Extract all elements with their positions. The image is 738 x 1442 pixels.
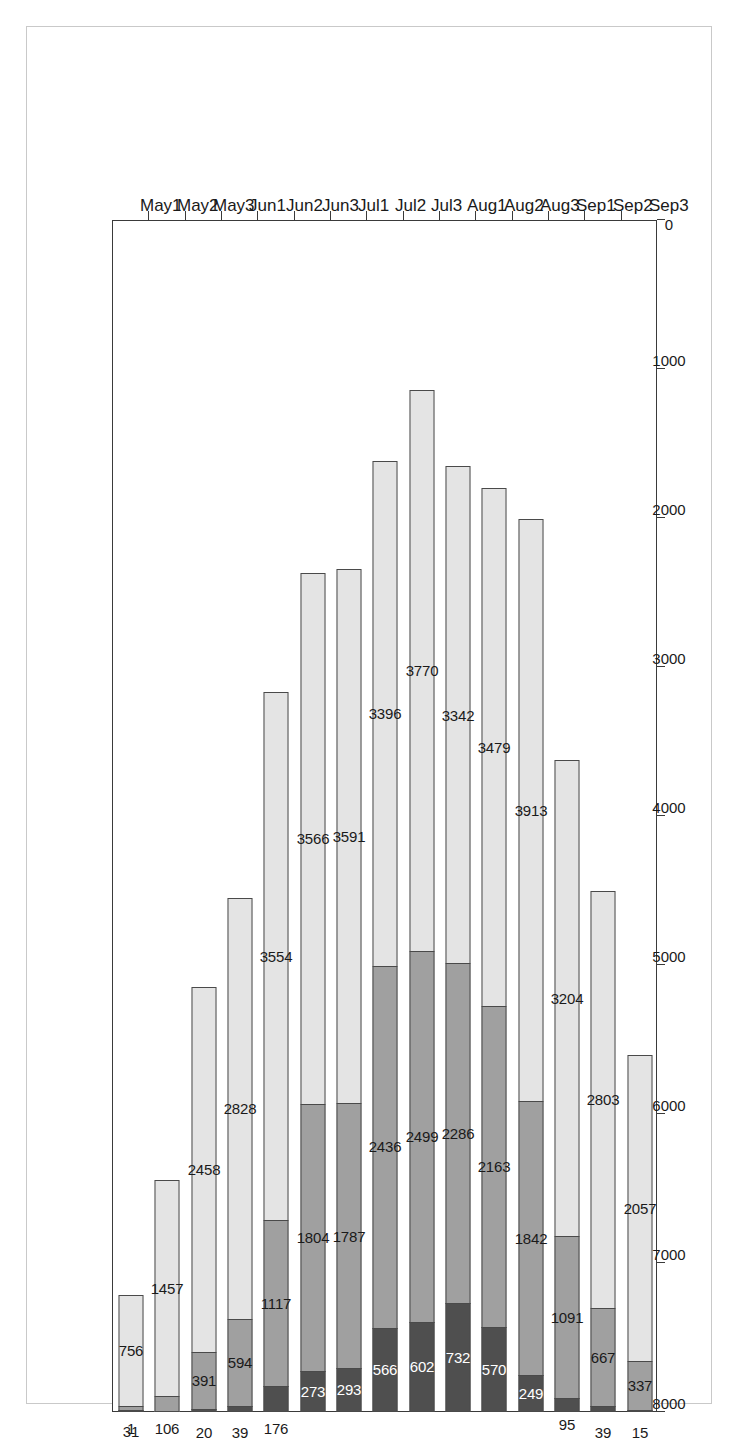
bar-value-label: 3342 [442,708,475,723]
value-axis-tick [657,219,665,220]
bar-group: 35661804273 [295,221,331,1411]
value-axis-tick-label: 0 [665,216,673,233]
bar-value-label: 1091 [551,1310,584,1325]
bar-segment[interactable]: 2458 [191,987,216,1353]
stacked-bar[interactable]: 34792163570 [482,488,507,1411]
bar-segment[interactable]: 2499 [409,951,434,1323]
category-axis-tick [439,211,440,220]
bar-segment[interactable]: 1117 [264,1220,289,1386]
category-axis-tick [512,211,513,220]
stacked-bar[interactable]: 33962436566 [373,461,398,1411]
bar-segment[interactable]: 39 [228,1406,253,1412]
category-axis-label: Sep2 [613,196,653,216]
bar-group: 35541117176 [258,221,294,1411]
stacked-bar[interactable]: 35541117176 [264,692,289,1411]
bar-segment[interactable]: 391 [191,1352,216,1410]
category-axis-tick [221,211,222,220]
bar-segment[interactable]: 1457 [155,1180,180,1397]
bar-segment[interactable]: 15 [627,1410,652,1412]
bar-segment[interactable]: 3770 [409,390,434,952]
bar-value-label: 3554 [260,949,293,964]
category-axis-tick [366,211,367,220]
bar-segment[interactable]: 249 [518,1375,543,1412]
bar-segment[interactable]: 293 [337,1368,362,1412]
category-axis-label: Jul1 [358,196,389,216]
bar-segment[interactable]: 106 [155,1396,180,1412]
category-axis-tick [475,211,476,220]
bar-segment[interactable]: 756 [119,1295,144,1408]
stacked-bar[interactable]: 282859439 [228,898,253,1411]
bar-value-label: 756 [119,1344,143,1359]
bar-segment[interactable]: 2057 [627,1055,652,1361]
bar-segment[interactable]: 566 [373,1328,398,1412]
bar-segment[interactable]: 2163 [482,1006,507,1328]
category-axis-label: Aug3 [540,196,580,216]
category-axis-label: Sep3 [649,196,689,216]
bar-segment[interactable]: 95 [555,1398,580,1412]
bar-segment[interactable]: 3342 [446,466,471,964]
stacked-bar[interactable]: 245839120 [191,987,216,1411]
stacked-bar[interactable]: 39131842249 [518,519,543,1411]
bar-segment[interactable]: 732 [446,1303,471,1412]
stacked-bar[interactable]: 1457106 [155,1180,180,1411]
bar-value-label: 176 [264,1422,288,1437]
bar-segment[interactable]: 2286 [446,963,471,1304]
bar-segment[interactable]: 602 [409,1322,434,1412]
bar-segment[interactable]: 667 [591,1308,616,1407]
stacked-bar[interactable]: 205733715 [627,1055,652,1411]
bar-segment[interactable]: 273 [300,1371,325,1412]
bar-value-label: 2828 [224,1102,257,1117]
bar-segment[interactable]: 3591 [337,569,362,1104]
bar-value-label: 594 [228,1355,252,1370]
bar-segment[interactable]: 20 [191,1409,216,1412]
category-axis-label: Sep1 [576,196,616,216]
stacked-bar[interactable]: 3204109195 [555,760,580,1411]
bar-segment[interactable]: 1787 [337,1103,362,1369]
category-axis-label: Jun2 [286,196,323,216]
stacked-bar[interactable]: 35661804273 [300,573,325,1411]
bar-segment[interactable]: 3913 [518,519,543,1102]
bar-group: 34792163570 [476,221,512,1411]
bar-group: 282859439 [222,221,258,1411]
bar-segment[interactable]: 3566 [300,573,325,1104]
bar-segment[interactable]: 570 [482,1327,507,1412]
bar-value-label: 1842 [515,1231,548,1246]
category-axis-tick [185,211,186,220]
bar-value-label: 3204 [551,991,584,1006]
bar-segment[interactable]: 3554 [264,692,289,1222]
category-axis-label: May2 [177,196,219,216]
bar-group: 1457106 [149,221,185,1411]
bar-segment[interactable]: 337 [627,1361,652,1411]
bar-segment[interactable]: 3396 [373,461,398,967]
bar-segment[interactable]: 594 [228,1319,253,1408]
bar-segment[interactable]: 1804 [300,1104,325,1373]
bar-value-label: 39 [595,1426,611,1441]
bar-segment[interactable]: 3479 [482,488,507,1006]
bar-value-label: 3396 [369,706,402,721]
bar-segment[interactable]: 1 [119,1410,144,1412]
bar-segment[interactable]: 1842 [518,1101,543,1375]
category-axis-label: Jun1 [249,196,286,216]
bar-segment[interactable]: 3204 [555,760,580,1237]
value-axis-tick-label: 1000 [652,352,685,369]
bar-group: 3204109195 [549,221,585,1411]
bar-segment[interactable]: 176 [264,1386,289,1412]
bar-segment[interactable]: 2436 [373,966,398,1329]
bar-value-label: 2803 [587,1093,620,1108]
bar-group: 37702499602 [404,221,440,1411]
stacked-bar[interactable]: 35911787293 [337,569,362,1411]
stacked-bar[interactable]: 33422286732 [446,466,471,1411]
bar-group: 39131842249 [513,221,549,1411]
value-axis-tick-label: 8000 [652,1395,685,1412]
bar-value-label: 3479 [478,740,511,755]
stacked-bar[interactable]: 280366739 [591,891,616,1411]
bar-segment[interactable]: 2803 [591,891,616,1309]
bar-segment[interactable]: 1091 [555,1236,580,1399]
bar-segment[interactable]: 2828 [228,898,253,1319]
category-axis-tick [621,211,622,220]
bar-value-label: 15 [632,1426,648,1441]
bar-segment[interactable]: 39 [591,1406,616,1412]
stacked-bar[interactable]: 37702499602 [409,390,434,1411]
bar-value-label: 2286 [442,1126,475,1141]
stacked-bar[interactable]: 756311 [119,1295,144,1411]
